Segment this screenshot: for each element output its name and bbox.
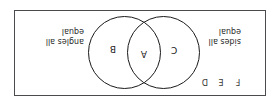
region-label-intersection: A	[137, 49, 151, 58]
region-label-right-only: B	[106, 44, 120, 53]
caption-right-circle: angles all equal	[46, 26, 84, 46]
caption-right-line-1: angles all	[46, 36, 84, 46]
outside-label-d: D	[200, 77, 210, 85]
venn-diagram-screenshot: C A B D E F sides all equal angles all e…	[0, 0, 277, 104]
caption-left-line-1: sides all	[209, 36, 241, 46]
caption-left-circle: sides all equal	[209, 26, 241, 46]
caption-left-line-2: equal	[209, 26, 241, 36]
rotated-figure-container: C A B D E F sides all equal angles all e…	[0, 0, 277, 104]
outside-label-e: E	[216, 77, 226, 85]
outside-label-f: F	[233, 77, 243, 85]
caption-right-line-2: equal	[46, 26, 84, 36]
region-label-left-only: C	[167, 45, 181, 54]
